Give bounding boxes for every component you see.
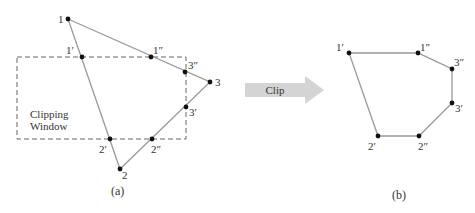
vertices-a (66, 17, 213, 172)
label-3: 3 (215, 76, 221, 88)
clipping-window-label-line2: Window (30, 120, 67, 132)
label-b-3-prime: 3′ (455, 102, 463, 114)
label-b-1-prime: 1′ (336, 41, 344, 53)
caption-a: (a) (111, 184, 124, 198)
label-b-3-double-prime: 3″ (454, 56, 464, 68)
vertex-b-1-prime (347, 51, 352, 56)
label-2: 2 (122, 169, 128, 181)
label-1-double-prime: 1″ (153, 44, 163, 56)
label-2-double-prime: 2″ (151, 143, 161, 155)
vertices-b (347, 51, 455, 139)
label-3-prime: 3′ (189, 106, 197, 118)
vertex-3-prime (184, 105, 189, 110)
figure-b: 1′ 1″ 3″ 3′ 2″ 2′ (b) (336, 41, 464, 202)
original-triangle (68, 19, 210, 169)
label-2-prime: 2′ (99, 143, 107, 155)
arrow-shape (245, 76, 324, 104)
vertex-b-2-prime (376, 134, 381, 139)
label-b-2-prime: 2′ (368, 140, 376, 152)
label-1: 1 (58, 13, 64, 25)
vertex-1-prime (80, 55, 85, 60)
clipping-window-label-line1: Clipping (30, 108, 69, 120)
vertex-1 (66, 17, 71, 22)
vertex-b-2-double-prime (417, 134, 422, 139)
clip-arrow: Clip (245, 76, 324, 104)
vertex-3 (208, 80, 213, 85)
vertex-3-double-prime (183, 70, 188, 75)
label-3-double-prime: 3″ (188, 59, 198, 71)
arrow-label: Clip (266, 84, 285, 96)
vertex-2-double-prime (150, 137, 155, 142)
polygon-clipping-diagram: 1 2 3 1′ 1″ 3″ 3′ 2′ 2″ Clipping Window … (0, 0, 475, 213)
label-b-2-double-prime: 2″ (418, 140, 428, 152)
caption-b: (b) (392, 188, 406, 202)
vertex-b-3-prime (450, 101, 455, 106)
clipped-polygon (349, 53, 452, 136)
label-1-prime: 1′ (66, 44, 74, 56)
figure-a: 1 2 3 1′ 1″ 3″ 3′ 2′ 2″ Clipping Window … (17, 13, 221, 198)
label-b-1-double-prime: 1″ (420, 41, 430, 53)
vertex-2-prime (108, 137, 113, 142)
